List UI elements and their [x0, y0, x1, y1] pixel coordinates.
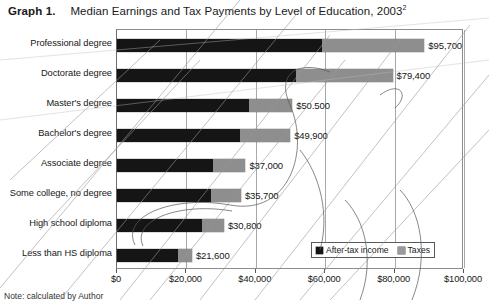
x-axis-tick-label: $20,000 — [169, 274, 202, 284]
chart-title-main: Median Earnings and Tax Payments by Leve… — [70, 5, 402, 17]
bar-segment-taxes[interactable] — [178, 249, 192, 262]
bar-series-group: $95,700$79,400$50.500$49,900$37,000$35,7… — [117, 30, 462, 268]
bar-segment-taxes[interactable] — [202, 219, 224, 232]
stacked-bar[interactable] — [117, 69, 393, 82]
y-axis-category-label: Master's degree — [0, 98, 112, 108]
chart-title-text: Median Earnings and Tax Payments by Leve… — [70, 4, 406, 17]
gridline — [464, 30, 465, 268]
x-axis-tick — [394, 269, 395, 273]
x-axis-tick-label: $0 — [111, 274, 121, 284]
bar-value-label: $37,000 — [249, 160, 283, 171]
y-axis-category-label: Some college, no degree — [0, 188, 112, 198]
y-axis-labels: Professional degreeDoctorate degreeMaste… — [0, 29, 112, 269]
x-axis-tick — [255, 269, 256, 273]
bar-segment-taxes[interactable] — [322, 39, 425, 52]
x-axis-tick-label: $80,000 — [377, 274, 410, 284]
bar-segment-after-tax-income[interactable] — [117, 219, 202, 232]
bar-segment-after-tax-income[interactable] — [117, 249, 178, 262]
bar-segment-after-tax-income[interactable] — [117, 69, 296, 82]
stacked-bar[interactable] — [117, 99, 292, 112]
bar-row: $95,700 — [117, 37, 462, 53]
x-axis-tick-label: $40,000 — [238, 274, 271, 284]
graph-number-label: Graph 1. — [8, 5, 55, 17]
legend-item[interactable]: After-tax income — [316, 245, 389, 255]
bar-segment-after-tax-income[interactable] — [117, 39, 322, 52]
title-footnote-marker: 2 — [402, 4, 406, 11]
y-axis-category-label: Professional degree — [0, 38, 112, 48]
y-axis-category-label: Associate degree — [0, 158, 112, 168]
bar-value-label: $79,400 — [397, 70, 431, 81]
y-axis-category-label: High school diploma — [0, 218, 112, 228]
chart-legend: After-tax incomeTaxes — [311, 242, 435, 258]
bar-row: $50.500 — [117, 97, 462, 113]
bar-segment-after-tax-income[interactable] — [117, 159, 213, 172]
stacked-bar[interactable] — [117, 129, 290, 142]
bar-row: $30,800 — [117, 217, 462, 233]
bar-value-label: $21,600 — [196, 250, 230, 261]
x-axis-tick — [185, 269, 186, 273]
x-axis-tick — [324, 269, 325, 273]
black-square-icon — [316, 247, 323, 254]
bar-value-label: $30,800 — [228, 220, 262, 231]
stacked-bar[interactable] — [117, 39, 424, 52]
chart-plot-area: $95,700$79,400$50.500$49,900$37,000$35,7… — [116, 29, 463, 269]
legend-label: After-tax income — [326, 245, 389, 255]
bar-segment-after-tax-income[interactable] — [117, 189, 211, 202]
bar-segment-taxes[interactable] — [240, 129, 290, 142]
bar-row: $35,700 — [117, 187, 462, 203]
footnote-text: Note: calculated by Author — [4, 291, 103, 301]
x-axis-labels: $0$20,000$40,000$60,000$80,000$100,000 — [0, 274, 489, 288]
legend-item[interactable]: Taxes — [398, 245, 430, 255]
bar-row: $37,000 — [117, 157, 462, 173]
x-axis-tick — [116, 269, 117, 273]
stacked-bar[interactable] — [117, 249, 192, 262]
y-axis-category-label: Doctorate degree — [0, 68, 112, 78]
bar-segment-taxes[interactable] — [213, 159, 245, 172]
bar-value-label: $49,900 — [294, 130, 328, 141]
bar-value-label: $50.500 — [296, 100, 330, 111]
stacked-bar[interactable] — [117, 189, 241, 202]
gray-square-icon — [398, 247, 405, 254]
bar-segment-taxes[interactable] — [211, 189, 241, 202]
bar-segment-taxes[interactable] — [296, 69, 392, 82]
y-axis-category-label: Less than HS diploma — [0, 248, 112, 258]
x-axis-tick-label: $60,000 — [308, 274, 341, 284]
bar-segment-after-tax-income[interactable] — [117, 99, 249, 112]
x-axis-tick — [463, 269, 464, 273]
stacked-bar[interactable] — [117, 219, 224, 232]
bar-value-label: $95,700 — [428, 40, 462, 51]
bar-value-label: $35,700 — [245, 190, 279, 201]
bar-row: $79,400 — [117, 67, 462, 83]
bar-row: $49,900 — [117, 127, 462, 143]
y-axis-category-label: Bachelor's degree — [0, 128, 112, 138]
page-title: Graph 1. Median Earnings and Tax Payment… — [8, 4, 483, 22]
x-axis-tick-label: $100,000 — [444, 274, 482, 284]
bar-segment-after-tax-income[interactable] — [117, 129, 240, 142]
stacked-bar[interactable] — [117, 159, 245, 172]
legend-label: Taxes — [408, 245, 430, 255]
bar-segment-taxes[interactable] — [249, 99, 293, 112]
